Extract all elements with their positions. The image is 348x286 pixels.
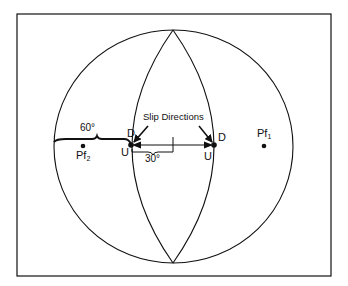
slip-directions-label: Slip Directions [143, 112, 204, 122]
brace-60-degrees [54, 136, 131, 144]
up-label-right: U [204, 151, 212, 162]
pole-1-label: Pf1 [257, 128, 271, 140]
slip-arrow-left [134, 126, 148, 142]
pole-2-label: Pf2 [76, 150, 90, 162]
pole-pf1 [262, 144, 267, 149]
pole-pf2 [81, 144, 86, 149]
pole-1-label-base: Pf [257, 127, 267, 139]
angle-30-label: 30° [145, 154, 160, 164]
pole-2-label-base: Pf [76, 149, 86, 161]
down-label-right: D [218, 132, 226, 143]
angle-60-label: 60° [80, 123, 95, 133]
slip-arrow-right [199, 126, 212, 142]
pole-2-label-subscript: 2 [86, 155, 90, 162]
stereonet-diagram [0, 0, 348, 286]
slip-point-left [128, 142, 134, 148]
up-label-left: U [121, 147, 129, 158]
slip-point-right [211, 142, 217, 148]
down-label-left: D [127, 128, 135, 139]
pole-1-label-subscript: 1 [267, 133, 271, 140]
